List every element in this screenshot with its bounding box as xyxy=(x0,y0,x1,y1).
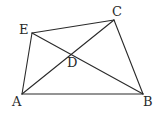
label-d: D xyxy=(67,55,77,70)
label-c: C xyxy=(112,4,122,19)
segment-bc xyxy=(114,20,143,94)
diagram-canvas: A B C E D xyxy=(0,0,160,113)
segments-group xyxy=(22,20,143,94)
geometry-figure: A B C E D xyxy=(0,0,160,113)
label-b: B xyxy=(143,94,153,109)
label-e: E xyxy=(19,22,29,37)
segment-ea xyxy=(22,33,32,94)
segment-ce xyxy=(32,20,114,33)
diagonal-eb xyxy=(32,33,143,94)
label-a: A xyxy=(11,94,22,109)
labels-group: A B C E D xyxy=(11,4,153,109)
